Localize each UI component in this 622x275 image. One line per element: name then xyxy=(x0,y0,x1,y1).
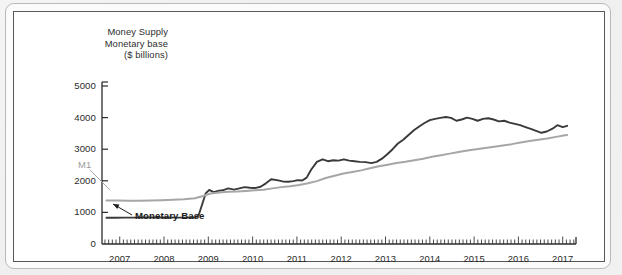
scanned-page: Money Supply Monetary base ($ billions) … xyxy=(0,0,622,275)
x-axis-tick-2014: 2014 xyxy=(408,253,452,264)
monetary-base-arrow-head xyxy=(113,204,119,209)
x-axis-tick-2017: 2017 xyxy=(541,253,585,264)
chart-plot-area xyxy=(14,12,606,263)
m1-leader-line xyxy=(90,170,110,190)
x-axis-tick-2011: 2011 xyxy=(275,253,319,264)
x-axis-tick-2016: 2016 xyxy=(496,253,540,264)
annotation-m1-label: M1 xyxy=(78,159,91,170)
x-axis-tick-2015: 2015 xyxy=(452,253,496,264)
annotation-monetary-base-label: Monetary Base xyxy=(135,210,205,221)
series-line-m1 xyxy=(106,135,567,201)
series-line-monetary-base xyxy=(106,117,567,218)
x-axis-tick-2012: 2012 xyxy=(319,253,363,264)
x-axis-tick-2013: 2013 xyxy=(364,253,408,264)
x-axis-tick-2008: 2008 xyxy=(142,253,186,264)
x-axis-tick-2010: 2010 xyxy=(231,253,275,264)
figure-container: Money Supply Monetary base ($ billions) … xyxy=(13,11,605,262)
x-axis-tick-2007: 2007 xyxy=(98,253,142,264)
x-axis-tick-2009: 2009 xyxy=(186,253,230,264)
